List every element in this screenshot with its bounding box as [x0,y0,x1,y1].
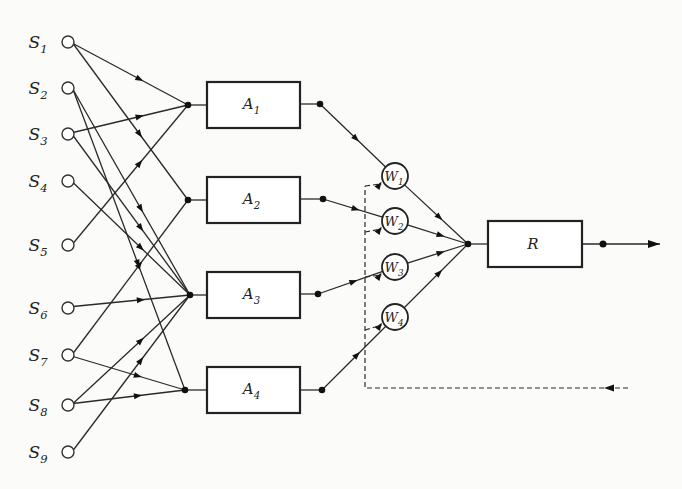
edge-S6-A3 [73,295,190,307]
edge-A4-W4 [322,326,386,390]
output-junction-dot [315,291,322,298]
associator-A2: A2 [185,177,327,223]
sensor-node [62,349,74,361]
arrowhead-icon [133,372,142,380]
arrowhead-icon [135,113,144,121]
sensor-label: S4 [28,171,47,195]
edge-W1-sum [405,185,468,244]
sensor-label: S6 [28,298,47,322]
output-junction-dot [317,101,324,108]
edge-A1-W1 [320,104,386,167]
response-label: R [526,235,538,253]
input-junction-dot [182,387,189,394]
edge-S4-A3 [73,183,190,296]
sensor-S5: S5 [28,235,74,259]
edge-S9-A3 [73,295,190,451]
arrowhead-icon [137,296,146,303]
feedback-arrow-icon [604,385,614,392]
sensor-node [62,36,74,48]
sensor-label: S9 [28,442,47,466]
arrowhead-icon [135,75,145,84]
edge-S3-A3 [73,136,190,296]
sensor-node [62,128,74,140]
arrowhead-icon [134,392,143,399]
input-junction-dot [187,292,194,299]
sensor-S4: S4 [28,171,74,195]
weight-W4: W4 [382,304,408,330]
edge-S8-A3 [73,295,190,404]
sensor-node [62,239,74,251]
edge-S1-A2 [73,44,188,201]
output-dot [600,241,607,248]
edge-S1-A1 [73,44,188,106]
perceptron-diagram: S1S2S3S4S5S6S7S8S9A1A2A3A4W1W2W3W4R [0,0,682,489]
sensor-label: S1 [28,32,47,56]
weight-W3: W3 [382,254,408,280]
sensor-label: S2 [28,78,47,102]
nodes: S1S2S3S4S5S6S7S8S9A1A2A3A4W1W2W3W4R [28,32,582,466]
sensor-node [62,399,74,411]
sensor-S9: S9 [28,442,74,466]
sensor-label: S8 [28,395,47,419]
associator-A3: A3 [187,272,322,318]
edge-S8-A4 [73,390,185,404]
sum-junction-dot [465,241,472,248]
sensor-node [62,302,74,314]
sensor-node [62,82,74,94]
weight-W2: W2 [382,208,408,234]
response-unit: R [488,221,582,267]
sensor-S3: S3 [28,124,74,148]
arrowhead-icon [349,277,359,285]
sensor-label: S3 [28,124,47,148]
sensor-S2: S2 [28,78,74,102]
output-junction-dot [319,387,326,394]
sensor-S8: S8 [28,395,74,419]
sensor-node [62,446,74,458]
sensor-node [62,175,74,187]
output-junction-dot [320,196,327,203]
edge-S7-A4 [73,357,185,391]
arrowhead-icon [136,204,145,214]
output-arrow-icon [648,240,660,248]
arrowhead-icon [436,231,445,239]
sensor-S6: S6 [28,298,74,322]
sensor-label: S7 [28,345,48,369]
sensor-S7: S7 [28,345,74,369]
sensor-S1: S1 [28,32,74,56]
edge-S2-A4 [73,90,185,391]
input-junction-dot [185,197,192,204]
input-junction-dot [185,102,192,109]
weight-W1: W1 [382,163,408,189]
arrowhead-icon [351,205,360,213]
arrowhead-icon [436,249,445,257]
edge-S2-A3 [73,90,190,296]
sensor-label: S5 [28,235,47,259]
